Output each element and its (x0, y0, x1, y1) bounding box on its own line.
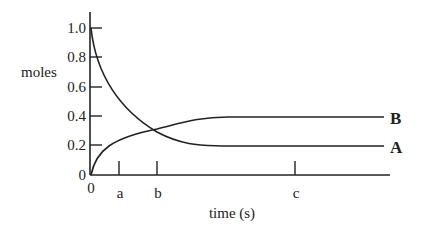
x-tick-label-c: c (293, 185, 300, 201)
x-tick-label-b: b (154, 185, 162, 201)
y-tick-label-0-2: 0.2 (67, 137, 86, 153)
y-tick-label-0-8: 0.8 (67, 49, 86, 65)
x-axis-title: time (s) (209, 205, 255, 222)
series-a-curve (91, 28, 384, 146)
y-tick-label-0: 0 (79, 167, 87, 183)
x-tick-label-0: 0 (87, 180, 95, 196)
x-ticks (119, 161, 295, 175)
y-tick-label-1-0: 1.0 (67, 20, 86, 36)
y-tick-label-0-4: 0.4 (67, 108, 86, 124)
y-tick-label-0-6: 0.6 (67, 79, 86, 95)
x-tick-label-a: a (117, 185, 124, 201)
moles-vs-time-chart: 1.0 0.8 0.6 0.4 0.2 0 0 a b c moles time… (0, 0, 422, 229)
y-ticks (90, 28, 102, 145)
y-axis-title: moles (21, 64, 57, 80)
series-b-label: B (390, 109, 401, 128)
series-a-label: A (390, 138, 403, 157)
